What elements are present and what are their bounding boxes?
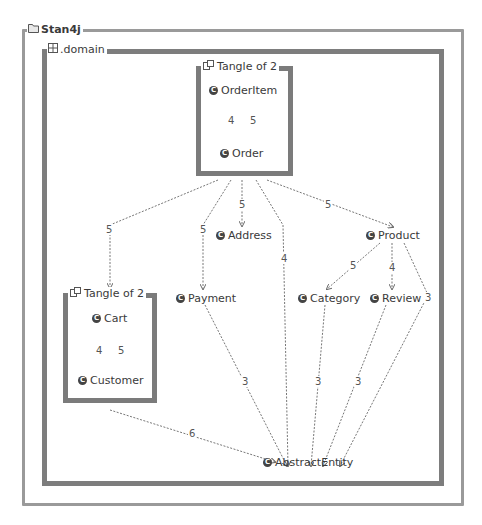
node-abstractentity[interactable]: C AbstractEntity [263, 456, 353, 469]
class-icon: C [92, 314, 101, 323]
node-address[interactable]: C Address [216, 229, 272, 242]
edge-weight: 3 [241, 376, 249, 387]
node-orderitem[interactable]: C OrderItem [209, 84, 277, 97]
class-icon: C [216, 231, 225, 240]
edge-weight: 5 [349, 260, 357, 271]
node-review[interactable]: C Review [370, 292, 421, 305]
edge-weight: 5 [324, 199, 332, 210]
class-icon: C [209, 86, 218, 95]
edge-weight: 3 [354, 376, 362, 387]
node-customer[interactable]: C Customer [78, 374, 143, 387]
edge-weight: 4 [227, 115, 235, 126]
inner-frame-label: .domain [60, 44, 105, 56]
folder-icon [28, 23, 39, 36]
class-icon: C [370, 294, 379, 303]
tangle-icon [203, 60, 214, 73]
outer-frame-title[interactable]: Stan4j [27, 23, 83, 36]
package-icon [48, 43, 58, 56]
tangle-order-label: Tangle of 2 [217, 61, 277, 73]
node-category[interactable]: C Category [298, 292, 360, 305]
tangle-icon [70, 287, 81, 300]
abstract-class-icon: C [263, 458, 272, 467]
edge-weight: 4 [280, 253, 288, 264]
class-icon: C [176, 294, 185, 303]
class-icon: C [298, 294, 307, 303]
edge-weight: 5 [238, 199, 246, 210]
node-order[interactable]: C Order [220, 147, 263, 160]
edge-weight: 5 [199, 224, 207, 235]
class-icon: C [78, 376, 87, 385]
tangle-cart-label: Tangle of 2 [84, 288, 144, 300]
node-cart[interactable]: C Cart [92, 312, 127, 325]
tangle-cart-title: Tangle of 2 [68, 287, 146, 300]
edge-weight: 3 [314, 376, 322, 387]
class-icon: C [220, 149, 229, 158]
edge-weight: 6 [188, 428, 196, 439]
edge-weight: 5 [105, 224, 113, 235]
edge-weight: 5 [249, 115, 257, 126]
node-payment[interactable]: C Payment [176, 292, 236, 305]
edge-weight: 3 [424, 292, 432, 303]
edge-weight: 5 [117, 345, 125, 356]
node-product[interactable]: C Product [366, 229, 420, 242]
outer-frame-label: Stan4j [41, 24, 81, 36]
edge-weight: 4 [95, 345, 103, 356]
edge-weight: 4 [388, 262, 396, 273]
class-icon: C [366, 231, 375, 240]
inner-frame-title[interactable]: .domain [47, 43, 107, 56]
tangle-order-title: Tangle of 2 [201, 60, 279, 73]
